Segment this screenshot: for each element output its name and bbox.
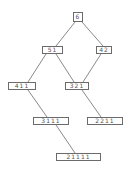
node-321: 321	[65, 82, 89, 90]
node-21111: 21111	[56, 153, 101, 161]
edge-3111-21111	[56, 125, 75, 153]
edge-51-321	[56, 54, 74, 82]
edge-51-411	[28, 54, 46, 82]
node-42: 42	[96, 46, 112, 54]
node-2211: 2211	[87, 117, 123, 125]
edge-6-51	[56, 22, 75, 46]
edge-411-3111	[28, 90, 47, 117]
hasse-diagram: 651424113213111221121111	[0, 0, 126, 172]
node-3111: 3111	[33, 117, 69, 125]
node-411: 411	[8, 82, 36, 90]
node-6: 6	[73, 12, 83, 22]
edge-42-321	[83, 54, 101, 82]
edge-6-42	[82, 22, 103, 46]
edge-321-2211	[82, 90, 101, 117]
node-51: 51	[42, 46, 63, 54]
